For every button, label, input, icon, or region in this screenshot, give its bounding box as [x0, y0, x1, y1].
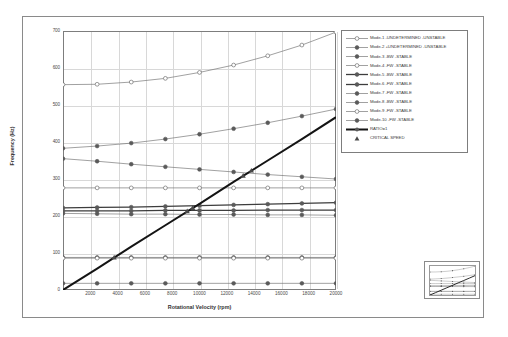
- data-point: [198, 71, 202, 75]
- x-tick-label: 8000: [167, 292, 177, 297]
- inset-curves: [430, 266, 475, 295]
- data-point: [95, 212, 99, 216]
- data-point: [266, 173, 270, 177]
- data-point: [232, 281, 236, 285]
- data-point: [232, 186, 236, 190]
- y-tick-label: 300: [36, 177, 60, 182]
- data-point: [63, 212, 65, 216]
- data-point: [129, 162, 133, 166]
- y-tick-label: 400: [36, 140, 60, 145]
- data-point: [266, 208, 270, 212]
- data-point: [334, 256, 336, 260]
- legend-item: Mode-9 -FW -STABLE: [344, 107, 465, 116]
- data-point: [300, 256, 304, 260]
- data-point: [266, 256, 270, 260]
- data-point: [163, 186, 167, 190]
- data-point: [129, 205, 133, 209]
- x-axis-ticks: 2000400060008000100001200014000160001800…: [63, 292, 336, 302]
- curves-layer: [63, 31, 336, 290]
- legend-label: RATIO=1: [370, 127, 387, 131]
- data-point: [198, 213, 202, 217]
- data-point: [63, 256, 65, 260]
- legend-item: Mode-3 -BW -STABLE: [344, 52, 465, 61]
- x-tick-label: 2000: [85, 292, 95, 297]
- data-point: [232, 213, 236, 217]
- inset-plot: [429, 265, 476, 296]
- data-point: [232, 203, 236, 207]
- inset-thumbnail[interactable]: [424, 261, 480, 299]
- data-point: [163, 212, 167, 216]
- data-point: [232, 63, 236, 67]
- x-tick-label: 12000: [220, 292, 233, 297]
- legend-label: Mode-3 -BW -STABLE: [370, 55, 412, 59]
- legend-item: Mode-5 -BW -STABLE: [344, 70, 465, 79]
- legend-item: Mode-7 -FW -STABLE: [344, 89, 465, 98]
- legend-label: Mode-6 -FW -STABLE: [370, 82, 412, 86]
- x-tick-label: 10000: [193, 292, 206, 297]
- series-line: [63, 157, 336, 181]
- data-point: [266, 213, 270, 217]
- data-point: [63, 157, 65, 161]
- legend: Mode-1 -UNDETERMINED -UNSTABLEMode-2 +UN…: [341, 30, 468, 153]
- legend-label: Mode-8 -BW -STABLE: [370, 100, 412, 104]
- data-point: [163, 256, 167, 260]
- campbell-diagram: 7006005004003002001000 Frequency (Hz) 20…: [0, 0, 508, 337]
- data-point: [198, 167, 202, 171]
- x-tick-label: 20000: [330, 292, 343, 297]
- data-point: [334, 177, 336, 181]
- data-point: [266, 281, 270, 285]
- data-point: [232, 127, 236, 131]
- data-point: [163, 281, 167, 285]
- data-point: [129, 141, 133, 145]
- data-point: [300, 175, 304, 179]
- y-tick-label: 700: [36, 29, 60, 34]
- series-line: [63, 256, 336, 260]
- data-point: [95, 82, 99, 86]
- legend-key-icon: [344, 89, 370, 98]
- legend-key-icon: [344, 43, 370, 52]
- data-point: [266, 186, 270, 190]
- data-point: [300, 114, 304, 118]
- x-tick-label: 14000: [248, 292, 261, 297]
- data-point: [129, 281, 133, 285]
- data-point: [163, 137, 167, 141]
- data-point: [198, 209, 202, 213]
- legend-key-icon: [344, 61, 370, 70]
- legend-label: Mode-9 -FW -STABLE: [370, 109, 412, 113]
- data-point: [266, 121, 270, 125]
- legend-label: Mode-7 -FW -STABLE: [370, 91, 412, 95]
- data-point: [198, 132, 202, 136]
- data-point: [232, 256, 236, 260]
- data-point: [95, 281, 99, 285]
- data-point: [95, 159, 99, 163]
- x-tick-label: 6000: [140, 292, 150, 297]
- data-point: [300, 43, 304, 47]
- x-axis-label: Rotational Velocity (rpm): [63, 304, 336, 310]
- legend-label: Mode-2 +UNDETERMINED -UNSTABLE: [370, 45, 446, 49]
- legend-item: Mode-1 -UNDETERMINED -UNSTABLE: [344, 34, 465, 43]
- data-point: [163, 209, 167, 213]
- legend-item: Mode-2 +UNDETERMINED -UNSTABLE: [344, 43, 465, 52]
- data-point: [232, 170, 236, 174]
- data-point: [300, 202, 304, 206]
- series-line: [63, 31, 336, 87]
- data-point: [95, 186, 99, 190]
- x-tick-label: 18000: [302, 292, 315, 297]
- data-point: [334, 213, 336, 217]
- data-point: [95, 144, 99, 148]
- legend-key-icon: [344, 125, 370, 134]
- data-point: [198, 186, 202, 190]
- series-line: [63, 186, 336, 190]
- y-tick-label: 0: [36, 288, 60, 293]
- data-point: [63, 83, 65, 87]
- data-point: [163, 165, 167, 169]
- data-point: [300, 186, 304, 190]
- data-point: [334, 281, 336, 285]
- x-tick-label: 4000: [112, 292, 122, 297]
- x-tick-label: 16000: [275, 292, 288, 297]
- legend-label: CRITICAL SPEED: [370, 136, 404, 140]
- y-tick-label: 100: [36, 251, 60, 256]
- data-point: [163, 204, 167, 208]
- data-point: [129, 186, 133, 190]
- y-tick-label: 500: [36, 103, 60, 108]
